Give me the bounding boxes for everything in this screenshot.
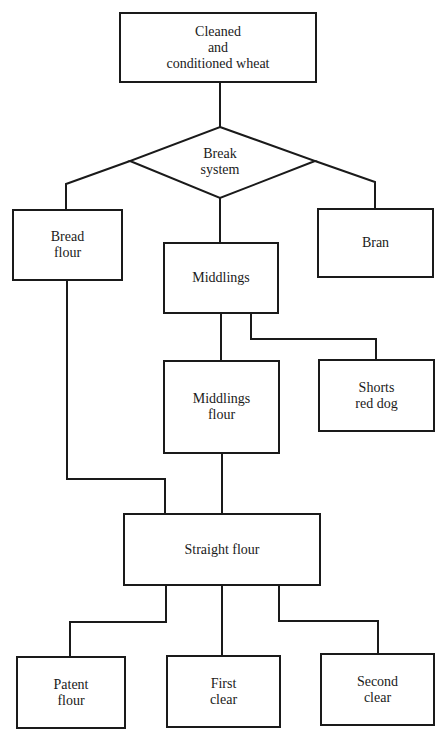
node-label: Patent flour bbox=[54, 677, 89, 709]
node-middlings: Middlings bbox=[163, 242, 279, 314]
node-label: First clear bbox=[210, 676, 237, 708]
node-label: Bran bbox=[362, 235, 389, 251]
node-second-clear: Second clear bbox=[320, 653, 435, 726]
node-shorts-red-dog: Shorts red dog bbox=[318, 359, 435, 432]
node-cleaned-conditioned-wheat: Cleaned and conditioned wheat bbox=[119, 12, 317, 83]
node-label: Shorts red dog bbox=[355, 380, 397, 412]
node-label: Cleaned and conditioned wheat bbox=[166, 24, 269, 72]
node-break-system: Break system bbox=[170, 146, 270, 178]
node-label: Middlings bbox=[192, 270, 250, 286]
node-middlings-flour: Middlings flour bbox=[163, 360, 280, 454]
node-bran: Bran bbox=[317, 208, 434, 278]
node-first-clear: First clear bbox=[166, 655, 281, 728]
node-label: Straight flour bbox=[184, 542, 259, 558]
node-bread-flour: Bread flour bbox=[12, 209, 123, 281]
node-straight-flour: Straight flour bbox=[123, 513, 321, 586]
node-label: Second clear bbox=[357, 674, 398, 706]
node-patent-flour: Patent flour bbox=[16, 656, 126, 729]
node-label: Bread flour bbox=[51, 229, 84, 261]
node-label: Middlings flour bbox=[193, 391, 251, 423]
